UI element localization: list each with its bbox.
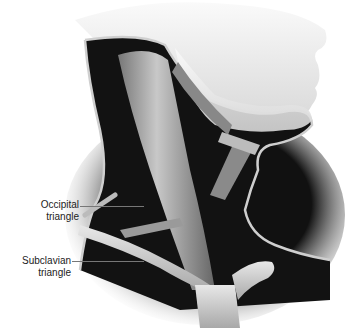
label-subclavian-line2: triangle	[14, 267, 71, 279]
label-subclavian-line1: Subclavian	[14, 255, 71, 267]
label-occipital-line1: Occipital	[30, 199, 79, 211]
sternum	[195, 285, 240, 328]
leader-line-occipital	[80, 206, 144, 207]
label-occipital-triangle: Occipital triangle	[30, 199, 79, 223]
label-subclavian-triangle: Subclavian triangle	[14, 255, 71, 279]
leader-line-subclavian	[72, 261, 144, 262]
label-occipital-line2: triangle	[30, 211, 79, 223]
